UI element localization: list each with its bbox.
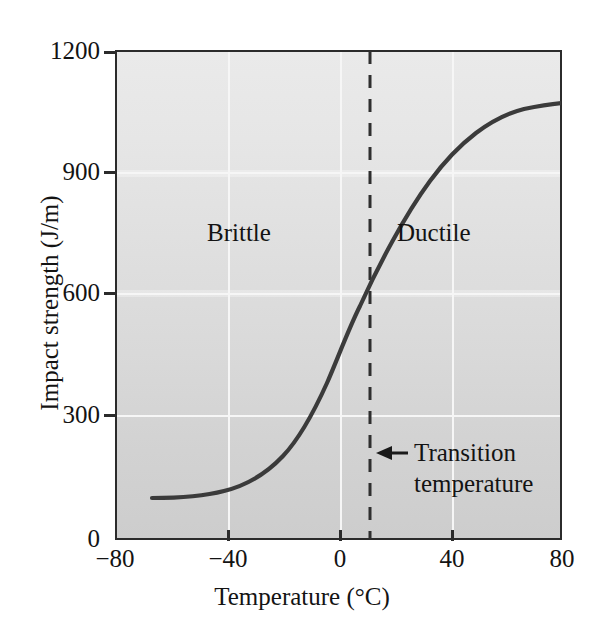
xtick-label-minus40-text: −40 — [208, 545, 247, 572]
y-axis-title: Impact strength (J/m) — [36, 133, 64, 473]
ytick-label-300-text: 300 — [63, 401, 101, 428]
xtick-mark-0 — [339, 530, 342, 541]
ytick-label-600-text: 600 — [63, 279, 101, 306]
x-axis-title: Temperature (°C) — [0, 583, 604, 611]
transition-annotation-line2: temperature — [414, 468, 533, 499]
transition-temperature-annotation: Transition temperature — [414, 437, 533, 499]
xtick-label-40: 40 — [407, 545, 497, 573]
ytick-label-1200: 1200 — [0, 38, 100, 63]
transition-annotation-line1: Transition — [414, 437, 533, 468]
xtick-label-40-text: 40 — [440, 545, 465, 572]
xtick-label-minus40: −40 — [183, 545, 273, 573]
region-label-brittle: Brittle — [207, 219, 271, 247]
xtick-mark-40 — [451, 530, 454, 541]
ytick-mark-1200 — [104, 51, 115, 54]
ytick-label-900-text: 900 — [63, 158, 101, 185]
xtick-label-80: 80 — [517, 545, 604, 573]
xtick-label-minus80: −80 — [70, 545, 160, 573]
ytick-mark-600 — [104, 292, 115, 295]
xtick-mark-minus40 — [227, 530, 230, 541]
impact-strength-chart: 1200 900 600 300 0 −80 −40 0 40 80 Tempe… — [0, 0, 604, 631]
region-label-ductile: Ductile — [397, 219, 471, 247]
xtick-label-minus80-text: −80 — [95, 545, 134, 572]
xtick-label-80-text: 80 — [550, 545, 575, 572]
xtick-label-0: 0 — [295, 545, 385, 573]
ytick-mark-300 — [104, 414, 115, 417]
transition-annotation-arrow — [376, 446, 408, 460]
ytick-mark-900 — [104, 171, 115, 174]
ytick-label-1200-text: 1200 — [50, 37, 100, 64]
xtick-label-0-text: 0 — [334, 545, 347, 572]
